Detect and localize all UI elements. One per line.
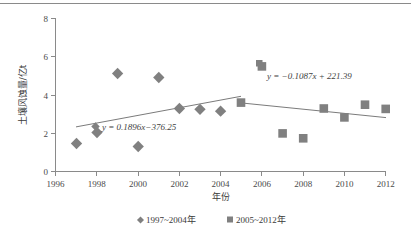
x-axis-title: 年份 [212,191,230,202]
data-point-1999 [112,68,123,79]
x-axis: 1996 1998 2000 2002 2004 2006 2008 2010 … [47,172,395,190]
legend-diamond-icon [137,216,144,223]
data-point-2010 [340,113,349,122]
y-axis: 8 6 4 2 0 [44,14,56,177]
y-axis-title: 土壤风蚀量/亿t [17,64,28,125]
legend-square-icon [227,217,233,223]
series-1-points [71,68,226,152]
legend-label-series-1: 1997~2004年 [146,214,196,225]
trendline-equation-2: y = −0.1087x + 221.39 [266,71,352,81]
x-tick-label-2000: 2000 [129,179,148,189]
trendline-equation-1: y = 0.1896x−376.25 [101,122,177,132]
data-point-1997 [71,138,82,149]
data-point-2012 [381,105,390,114]
data-point-2002 [174,103,185,114]
data-point-2007 [278,129,287,138]
data-point-2009 [320,104,329,113]
data-point-2000 [133,141,144,152]
scatter-plot: 8 6 4 2 0 1996 1998 2000 2002 2004 2006 … [0,0,411,239]
y-tick-label-4: 4 [44,91,49,101]
y-tick-label-8: 8 [44,14,49,24]
chart-figure: 8 6 4 2 0 1996 1998 2000 2002 2004 2006 … [0,0,411,239]
data-point-2011 [361,100,370,109]
y-tick-label-0: 0 [44,167,49,177]
x-tick-label-2002: 2002 [170,179,188,189]
x-tick-label-1996: 1996 [47,179,66,189]
x-tick-label-2004: 2004 [212,179,231,189]
data-point-2004 [215,106,226,117]
annotation-square-icon [256,60,263,67]
x-tick-label-2012: 2012 [377,179,395,189]
data-point-2005 [237,98,246,107]
x-tick-label-2006: 2006 [253,179,272,189]
x-tick-label-2008: 2008 [294,179,313,189]
annotation-series-2: y = −0.1087x + 221.39 [256,60,352,81]
x-tick-label-1998: 1998 [88,179,107,189]
data-point-2008 [299,134,308,143]
y-tick-label-6: 6 [44,52,49,62]
data-point-2001 [153,72,164,83]
annotation-series-1: y = 0.1896x−376.25 [91,122,176,132]
x-tick-label-2010: 2010 [335,179,354,189]
data-point-2003 [194,104,205,115]
y-tick-label-2: 2 [44,129,49,139]
legend-label-series-2: 2005~2012年 [236,214,286,225]
chart-legend: 1997~2004年 2005~2012年 [137,214,286,225]
